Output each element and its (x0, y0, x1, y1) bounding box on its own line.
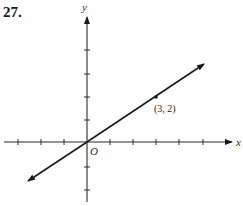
point-3-2: (3, 2) (154, 95, 176, 115)
y-axis: y (81, 1, 90, 202)
point-marker (154, 95, 158, 99)
x-axis: x (4, 136, 241, 148)
origin-label: O (90, 145, 98, 157)
x-axis-label: x (235, 136, 241, 148)
y-axis-label: y (81, 1, 87, 13)
point-label: (3, 2) (154, 103, 176, 115)
coordinate-plane: x y O (3, 2) (0, 0, 243, 206)
plotted-line (28, 64, 204, 181)
